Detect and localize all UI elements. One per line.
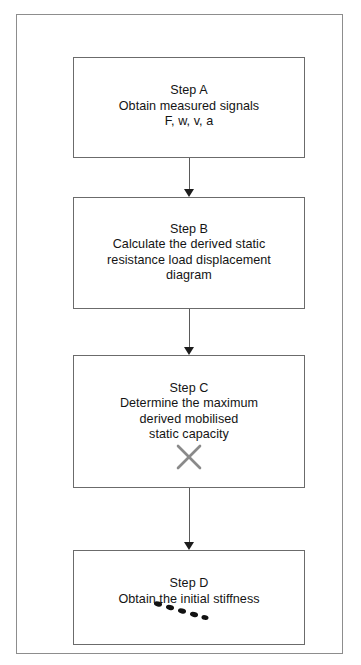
connector-shaft (189, 309, 190, 347)
dotted-stiffness-line-icon (151, 595, 215, 625)
flowchart-node-step-b-text: Step B Calculate the derived static resi… (107, 222, 271, 284)
connector-step-b-to-step-c (188, 309, 190, 355)
flowchart-node-step-a: Step A Obtain measured signals F, w, v, … (73, 57, 305, 158)
arrowhead-icon (184, 542, 194, 550)
flowchart-node-step-b: Step B Calculate the derived static resi… (73, 197, 305, 309)
arrowhead-icon (184, 347, 194, 355)
flowchart-node-step-c-text: Step C Determine the maximum derived mob… (120, 381, 258, 443)
connector-shaft (189, 158, 190, 189)
x-mark-icon (174, 442, 204, 472)
connector-step-c-to-step-d (188, 488, 190, 550)
figure-outer-frame: Step A Obtain measured signals F, w, v, … (16, 14, 343, 654)
flowchart-node-step-a-text: Step A Obtain measured signals F, w, v, … (119, 83, 259, 130)
connector-step-a-to-step-b (188, 158, 190, 197)
flowchart-figure: Step A Obtain measured signals F, w, v, … (0, 0, 361, 665)
connector-shaft (189, 488, 190, 542)
arrowhead-icon (184, 189, 194, 197)
